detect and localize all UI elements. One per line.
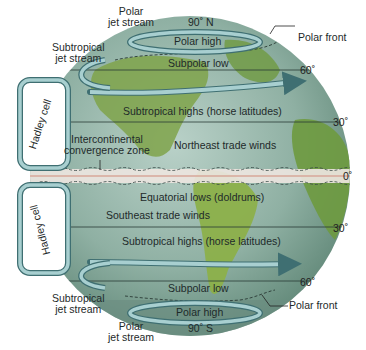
subtropical-jet-stream-south-label: Subtropical jet stream — [52, 293, 105, 315]
latitude-60s-label: 60˚ — [300, 276, 315, 288]
circulation-diagram: Polar jet stream 90˚ N Polar front Subtr… — [0, 0, 366, 350]
north-pole-label: 90˚ N — [188, 17, 214, 28]
equator-label: 0˚ — [343, 170, 352, 182]
southeast-trades-label: Southeast trade winds — [106, 210, 210, 221]
polar-jet-stream-north-label: Polar jet stream — [108, 6, 154, 28]
polar-jet-stream-south-label: Polar jet stream — [108, 321, 154, 343]
subpolar-low-north-label: Subpolar low — [168, 58, 229, 69]
equatorial-lows-label: Equatorial lows (doldrums) — [140, 192, 264, 203]
latitude-30s-label: 30˚ — [333, 222, 348, 234]
polar-high-south-label: Polar high — [176, 307, 223, 318]
label-line: convergence zone — [64, 145, 150, 156]
label-line: jet stream — [52, 304, 105, 315]
label-line: jet stream — [108, 332, 154, 343]
latitude-60n-label: 60˚ — [300, 64, 315, 76]
polar-front-north-label: Polar front — [298, 32, 346, 43]
northeast-trades-label: Northeast trade winds — [174, 140, 276, 151]
label-line: jet stream — [52, 53, 105, 64]
label-line: jet stream — [108, 17, 154, 28]
subpolar-low-south-label: Subpolar low — [168, 283, 229, 294]
latitude-30n-label: 30˚ — [333, 116, 348, 128]
south-pole-label: 90˚ S — [188, 323, 213, 334]
polar-front-south-label: Polar front — [289, 300, 337, 311]
polar-high-north-label: Polar high — [174, 36, 221, 47]
subtropical-highs-north-label: Subtropical highs (horse latitudes) — [123, 106, 282, 117]
polar-front-north-leader — [270, 26, 295, 34]
subtropical-jet-stream-north-label: Subtropical jet stream — [52, 42, 105, 64]
itcz-label: Intercontinental convergence zone — [64, 134, 150, 156]
subtropical-highs-south-label: Subtropical highs (horse latitudes) — [122, 236, 281, 247]
